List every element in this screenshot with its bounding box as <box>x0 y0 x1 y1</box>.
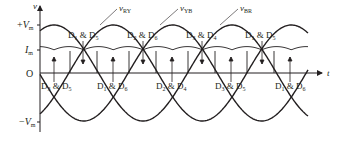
current-envelope <box>40 47 308 50</box>
vyb-label: vYB <box>180 3 192 14</box>
upper-label-4: D1 & D5 <box>245 30 276 41</box>
lower-diode-labels: D3 & D5 D1 & D6 D2 & D4 D3 & D5 D1 & D6 <box>41 81 306 92</box>
lower-label-5: D1 & D6 <box>275 81 306 92</box>
vry-leader <box>100 9 117 25</box>
up-arrow-icon <box>170 57 174 82</box>
origin-label: O <box>26 68 33 79</box>
lower-label-2: D1 & D6 <box>97 81 128 92</box>
t-axis-label: t <box>327 68 330 78</box>
im-label: Im <box>24 44 33 56</box>
vry-label: vRY <box>119 3 132 14</box>
rectifier-waveform-diagram: v t O +Vm Im −Vm vRY vYB vBR D1 & D5 D2 … <box>0 0 344 142</box>
vyb-leader <box>160 9 178 25</box>
up-arrow-icon <box>52 57 56 82</box>
upper-label-1: D1 & D5 <box>68 30 99 41</box>
plus-vm-label: +Vm <box>17 19 34 31</box>
up-arrow-icon <box>288 57 292 82</box>
upper-label-2: D2 & D6 <box>127 30 158 41</box>
y-axis-label: v <box>33 1 37 11</box>
down-arrow-icon <box>141 41 145 64</box>
lower-label-4: D3 & D5 <box>215 81 246 92</box>
vbr-leader <box>220 9 238 25</box>
up-arrow-icon <box>111 57 115 82</box>
upper-label-3: D3 & D4 <box>186 30 217 41</box>
minus-vm-label: −Vm <box>19 116 36 128</box>
lower-label-3: D2 & D4 <box>156 81 187 92</box>
vbr-label: vBR <box>240 3 252 14</box>
up-arrow-icon <box>229 57 233 82</box>
lower-label-1: D3 & D5 <box>41 81 72 92</box>
conduction-arrows-group <box>52 41 292 82</box>
